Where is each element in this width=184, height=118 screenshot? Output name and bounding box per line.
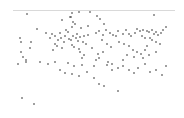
scatter-point <box>60 37 62 39</box>
scatter-point <box>79 51 81 53</box>
scatter-point <box>73 46 75 48</box>
scatter-point <box>73 65 75 67</box>
scatter-point <box>36 28 38 30</box>
scatter-point <box>122 33 124 35</box>
scatter-point <box>146 30 148 32</box>
scatter-point <box>111 69 113 71</box>
scatter-point <box>19 37 21 39</box>
scatter-point <box>39 61 41 63</box>
scatter-point <box>102 34 104 36</box>
scatter-point <box>81 57 83 59</box>
scatter-point <box>83 35 85 37</box>
scatter-point <box>54 35 56 37</box>
scatter-point <box>151 29 153 31</box>
scatter-point <box>95 32 97 34</box>
scatter-point <box>95 59 97 61</box>
scatter-point <box>45 32 47 34</box>
scatter-point <box>86 71 88 73</box>
scatter-point <box>30 41 32 43</box>
scatter-point <box>59 69 61 71</box>
scatter-point <box>29 47 31 49</box>
scatter-point <box>103 85 105 87</box>
scatter-point <box>122 59 124 61</box>
scatter-point <box>133 56 135 58</box>
scatter-point <box>25 59 27 61</box>
scatter-point <box>85 43 87 45</box>
scatter-point <box>79 36 81 38</box>
scatter-point <box>61 19 63 21</box>
scatter-point <box>159 43 161 45</box>
scatter-point <box>107 61 109 63</box>
scatter-point <box>157 34 159 36</box>
data-points <box>17 11 167 105</box>
scatter-point <box>47 63 49 65</box>
scatter-point <box>103 23 105 25</box>
scatter-point <box>82 41 84 43</box>
scatter-point <box>153 33 155 35</box>
scatter-point <box>111 63 113 65</box>
scatter-point <box>83 54 85 56</box>
scatter-point <box>161 74 163 76</box>
scatter-point <box>91 47 93 49</box>
scatter-point <box>22 56 24 58</box>
scatter-point <box>78 48 80 50</box>
scatter-point <box>106 43 108 45</box>
scatter-point <box>68 38 70 40</box>
scatter-point <box>144 49 146 51</box>
scatter-point <box>146 45 148 47</box>
scatter-point <box>117 30 119 32</box>
scatter-point <box>72 21 74 23</box>
scatter-point <box>87 34 89 36</box>
scatter-point <box>56 45 58 47</box>
scatter-point <box>20 41 22 43</box>
scatter-point <box>33 103 35 105</box>
scatter-point <box>133 72 135 74</box>
scatter-point <box>155 69 157 71</box>
scatter-point <box>137 67 139 69</box>
scatter-point <box>144 63 146 65</box>
scatter-point <box>49 37 51 39</box>
scatter-point <box>63 41 65 43</box>
scatter-point <box>112 34 114 36</box>
scatter-point <box>136 28 138 30</box>
scatter-point <box>74 23 76 25</box>
scatter-point <box>67 62 69 64</box>
scatter-point <box>71 73 73 75</box>
scatter-point <box>110 46 112 48</box>
scatter-point <box>149 37 151 39</box>
scatter-point <box>51 33 53 35</box>
scatter-point <box>165 65 167 67</box>
scatter-point <box>65 29 67 31</box>
scatter-point <box>71 12 73 14</box>
scatter-point <box>141 35 143 37</box>
scatter-point <box>109 32 111 34</box>
scatter-point <box>128 69 130 71</box>
scatter-point <box>98 30 100 32</box>
scatter-point <box>139 30 141 32</box>
scatter-plot-area <box>0 0 184 118</box>
scatter-point <box>118 41 120 43</box>
scatter-point <box>162 29 164 31</box>
scatter-point <box>26 13 28 15</box>
scatter-point <box>70 39 72 41</box>
scatter-point <box>117 67 119 69</box>
scatter-point <box>128 33 130 35</box>
scatter-point <box>80 27 82 29</box>
scatter-point <box>78 11 80 13</box>
scatter-point <box>89 11 91 13</box>
scatter-point <box>130 35 132 37</box>
scatter-point <box>160 32 162 34</box>
scatter-point <box>105 29 107 31</box>
scatter-point <box>54 43 56 45</box>
scatter-chart <box>0 0 184 118</box>
scatter-point <box>17 63 19 65</box>
scatter-point <box>96 15 98 17</box>
scatter-point <box>151 39 153 41</box>
scatter-point <box>59 32 61 34</box>
scatter-point <box>77 40 79 42</box>
scatter-point <box>93 77 95 79</box>
scatter-point <box>134 32 136 34</box>
scatter-point <box>122 65 124 67</box>
scatter-point <box>87 25 89 27</box>
scatter-point <box>72 35 74 37</box>
